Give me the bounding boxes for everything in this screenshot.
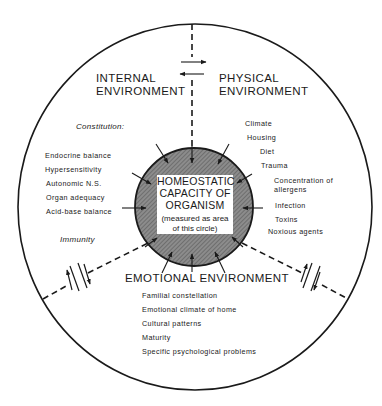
internal-item: Acid-base balance — [46, 208, 112, 215]
physical-item: Toxins — [275, 216, 298, 223]
center-note-line: of this circle) — [157, 224, 233, 234]
internal-item: Endocrine balance — [45, 152, 111, 159]
internal-item: Hypersensitivity — [45, 166, 102, 173]
center-title-line: HOMEOSTATIC — [157, 175, 233, 187]
emotional-item: Cultural patterns — [142, 320, 202, 327]
physical-item: Housing — [247, 134, 276, 141]
center-label: HOMEOSTATIC CAPACITY OF ORGANISM (measur… — [157, 175, 233, 234]
physical-item: Concentration of — [274, 177, 333, 184]
physical-item: Infection — [275, 202, 306, 209]
physical-item: Climate — [245, 120, 272, 127]
constitution-label: Constitution: — [76, 123, 124, 131]
emotional-item: Specific psychological problems — [142, 348, 256, 355]
center-title-line: CAPACITY OF — [157, 187, 233, 199]
center-note-line: (measured as area — [157, 214, 233, 224]
physical-item: Trauma — [261, 162, 288, 169]
internal-item: Autonomic N.S. — [46, 180, 102, 187]
physical-item: Noxious agents — [268, 228, 323, 235]
emotional-environment-heading: EMOTIONAL ENVIRONMENT — [125, 272, 289, 285]
emotional-item: Familial constellation — [142, 292, 218, 299]
emotional-item: Maturity — [142, 334, 171, 341]
physical-item: allergens — [274, 186, 307, 193]
emotional-item: Emotional climate of home — [142, 306, 237, 313]
exchange-slashes-right — [301, 263, 320, 291]
exchange-slashes-left — [67, 263, 90, 291]
immunity-label: Immunity — [60, 236, 95, 244]
lower-left-divider — [43, 243, 148, 299]
physical-item: Diet — [260, 148, 274, 155]
lower-right-divider — [242, 243, 348, 299]
internal-item: Organ adequacy — [46, 194, 105, 201]
center-title-line: ORGANISM — [157, 199, 233, 211]
physical-environment-heading: PHYSICAL ENVIRONMENT — [219, 72, 308, 98]
arrow-up-icon — [67, 270, 72, 290]
internal-environment-heading: INTERNAL ENVIRONMENT — [96, 72, 185, 98]
